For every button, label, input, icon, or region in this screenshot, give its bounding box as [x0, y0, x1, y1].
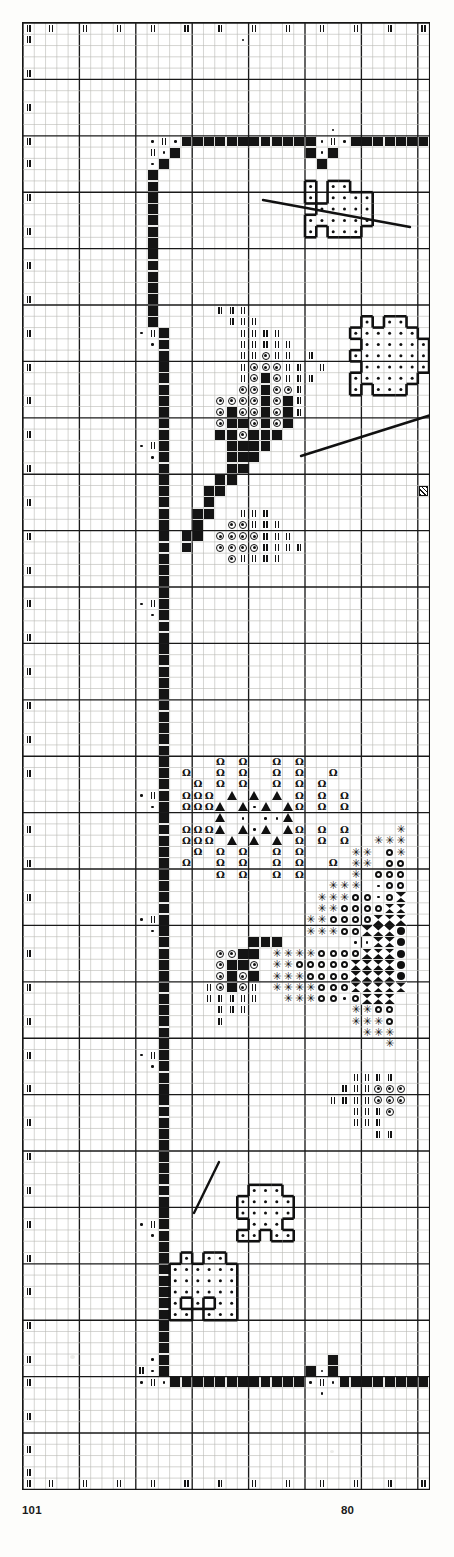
double-bar-stitch-cell[interactable]: [249, 554, 259, 564]
solid-black-stitch-cell[interactable]: [159, 340, 169, 350]
solid-black-stitch-cell[interactable]: [249, 430, 259, 440]
solid-black-stitch-cell[interactable]: [148, 272, 158, 282]
double-bar-stitch-cell[interactable]: [283, 362, 293, 372]
solid-black-stitch-cell[interactable]: [215, 486, 225, 496]
solid-black-stitch-cell[interactable]: [148, 182, 158, 192]
dot-stitch-cell[interactable]: [328, 1377, 338, 1387]
solid-black-stitch-cell[interactable]: [159, 1084, 169, 1094]
double-bar-stitch-cell[interactable]: [227, 1005, 237, 1015]
double-bar-stitch-cell[interactable]: [272, 351, 282, 361]
double-bar-stitch-cell[interactable]: [261, 328, 271, 338]
filled-triangle-stitch-cell[interactable]: [215, 813, 225, 823]
asterisk-stitch-cell[interactable]: ✳: [385, 1039, 395, 1049]
double-bar-stitch-cell[interactable]: [148, 441, 158, 451]
double-bar-stitch-cell[interactable]: [294, 407, 304, 417]
filled-triangle-stitch-cell[interactable]: [215, 825, 225, 835]
solid-black-stitch-cell[interactable]: [159, 362, 169, 372]
solid-black-stitch-cell[interactable]: [159, 1208, 169, 1218]
solid-black-stitch-cell[interactable]: [159, 475, 169, 485]
cross-stitch-x-cell[interactable]: [373, 960, 383, 970]
double-bar-stitch-cell[interactable]: [317, 1479, 327, 1489]
omega-stitch-cell[interactable]: Ω: [317, 802, 327, 812]
omega-stitch-cell[interactable]: Ω: [193, 825, 203, 835]
double-bar-stitch-cell[interactable]: [215, 1005, 225, 1015]
open-circle-stitch-cell[interactable]: [317, 983, 327, 993]
solid-black-stitch-cell[interactable]: [148, 294, 158, 304]
asterisk-stitch-cell[interactable]: ✳: [306, 994, 316, 1004]
double-bar-stitch-cell[interactable]: [419, 24, 429, 34]
open-circle-stitch-cell[interactable]: [340, 983, 350, 993]
cross-stitch-x-cell[interactable]: [396, 983, 406, 993]
solid-black-stitch-cell[interactable]: [261, 1377, 271, 1387]
double-bar-stitch-cell[interactable]: [283, 24, 293, 34]
solid-black-stitch-cell[interactable]: [159, 385, 169, 395]
filled-circle-stitch-cell[interactable]: [396, 937, 406, 947]
circle-with-dot-stitch-cell[interactable]: [215, 971, 225, 981]
double-bar-stitch-cell[interactable]: [204, 994, 214, 1004]
circle-with-dot-stitch-cell[interactable]: [215, 949, 225, 959]
cross-stitch-x-cell[interactable]: [385, 994, 395, 1004]
double-bar-stitch-cell[interactable]: [328, 1095, 338, 1105]
solid-black-stitch-cell[interactable]: [159, 667, 169, 677]
circle-with-dot-stitch-cell[interactable]: [396, 1095, 406, 1105]
solid-black-stitch-cell[interactable]: [249, 137, 259, 147]
solid-black-stitch-cell[interactable]: [340, 1377, 350, 1387]
solid-black-stitch-cell[interactable]: [159, 1050, 169, 1060]
solid-black-stitch-cell[interactable]: [159, 1265, 169, 1275]
double-bar-stitch-cell[interactable]: [340, 1084, 350, 1094]
filled-circle-stitch-cell[interactable]: [396, 971, 406, 981]
solid-black-stitch-cell[interactable]: [159, 452, 169, 462]
solid-black-stitch-cell[interactable]: [159, 746, 169, 756]
omega-stitch-cell[interactable]: Ω: [294, 791, 304, 801]
cross-stitch-x-cell[interactable]: [373, 949, 383, 959]
omega-stitch-cell[interactable]: Ω: [294, 779, 304, 789]
solid-black-stitch-cell[interactable]: [159, 1005, 169, 1015]
double-bar-stitch-cell[interactable]: [159, 137, 169, 147]
dot-stitch-cell[interactable]: [238, 813, 248, 823]
double-bar-stitch-cell[interactable]: [24, 892, 34, 902]
solid-black-stitch-cell[interactable]: [159, 971, 169, 981]
omega-stitch-cell[interactable]: Ω: [204, 825, 214, 835]
solid-black-stitch-cell[interactable]: [396, 1377, 406, 1387]
omega-stitch-cell[interactable]: Ω: [317, 836, 327, 846]
asterisk-stitch-cell[interactable]: ✳: [283, 994, 293, 1004]
solid-black-stitch-cell[interactable]: [159, 1355, 169, 1365]
filled-triangle-stitch-cell[interactable]: [238, 825, 248, 835]
dot-stitch-cell[interactable]: [249, 802, 259, 812]
cross-stitch-x-cell[interactable]: [385, 937, 395, 947]
double-bar-stitch-cell[interactable]: [24, 1118, 34, 1128]
double-bar-stitch-cell[interactable]: [238, 328, 248, 338]
asterisk-stitch-cell[interactable]: ✳: [306, 926, 316, 936]
solid-black-stitch-cell[interactable]: [261, 407, 271, 417]
solid-black-stitch-cell[interactable]: [159, 1095, 169, 1105]
double-bar-stitch-cell[interactable]: [385, 1073, 395, 1083]
circle-with-dot-stitch-cell[interactable]: [238, 396, 248, 406]
dot-stitch-cell[interactable]: [373, 892, 383, 902]
double-bar-stitch-cell[interactable]: [261, 554, 271, 564]
double-bar-stitch-cell[interactable]: [24, 1253, 34, 1263]
double-bar-stitch-cell[interactable]: [294, 385, 304, 395]
cross-stitch-x-cell[interactable]: [373, 994, 383, 1004]
solid-black-stitch-cell[interactable]: [159, 779, 169, 789]
dot-stitch-cell[interactable]: [148, 1061, 158, 1071]
omega-stitch-cell[interactable]: Ω: [193, 791, 203, 801]
solid-black-stitch-cell[interactable]: [159, 960, 169, 970]
open-circle-stitch-cell[interactable]: [340, 949, 350, 959]
double-bar-stitch-cell[interactable]: [148, 24, 158, 34]
double-bar-stitch-cell[interactable]: [215, 24, 225, 34]
double-bar-stitch-cell[interactable]: [80, 1479, 90, 1489]
solid-black-stitch-cell[interactable]: [227, 137, 237, 147]
double-bar-stitch-cell[interactable]: [24, 633, 34, 643]
dot-stitch-cell[interactable]: [362, 937, 372, 947]
asterisk-stitch-cell[interactable]: ✳: [340, 892, 350, 902]
solid-black-stitch-cell[interactable]: [159, 1107, 169, 1117]
solid-black-stitch-cell[interactable]: [227, 441, 237, 451]
filled-triangle-stitch-cell[interactable]: [249, 791, 259, 801]
solid-black-stitch-cell[interactable]: [238, 949, 248, 959]
asterisk-stitch-cell[interactable]: ✳: [328, 881, 338, 891]
double-bar-stitch-cell[interactable]: [283, 1479, 293, 1489]
solid-black-stitch-cell[interactable]: [249, 441, 259, 451]
solid-black-stitch-cell[interactable]: [227, 419, 237, 429]
circle-with-dot-stitch-cell[interactable]: [272, 373, 282, 383]
solid-black-stitch-cell[interactable]: [306, 1366, 316, 1376]
